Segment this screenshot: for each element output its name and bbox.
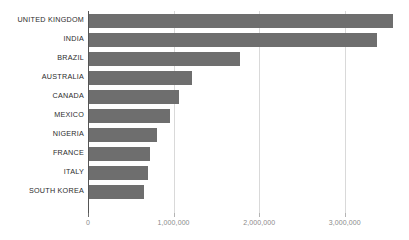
bar-row: UNITED KINGDOM	[0, 12, 409, 31]
category-label: MEXICO	[54, 110, 84, 119]
bar	[89, 166, 148, 180]
bar	[89, 14, 393, 28]
bar-row: INDIA	[0, 31, 409, 50]
bar	[89, 90, 179, 104]
bar-row: AUSTRALIA	[0, 69, 409, 88]
x-tick-label: 1,000,000	[158, 219, 190, 226]
category-label: FRANCE	[53, 148, 84, 157]
x-tick-label: 3,000,000	[329, 219, 361, 226]
category-label: NIGERIA	[53, 129, 84, 138]
bar	[89, 52, 240, 66]
category-label: BRAZIL	[57, 53, 84, 62]
category-label: INDIA	[64, 34, 84, 43]
x-tick-mark	[259, 213, 260, 217]
bar-row: SOUTH KOREA	[0, 183, 409, 202]
x-tick-label: 0	[86, 219, 90, 226]
bar	[89, 128, 157, 142]
bar	[89, 33, 377, 47]
category-label: SOUTH KOREA	[29, 186, 84, 195]
x-tick-mark	[345, 213, 346, 217]
bar-row: ITALY	[0, 164, 409, 183]
x-tick-label: 2,000,000	[243, 219, 275, 226]
bar-row: NIGERIA	[0, 126, 409, 145]
bar-row: BRAZIL	[0, 50, 409, 69]
x-tick-mark	[174, 213, 175, 217]
bar	[89, 71, 192, 85]
category-label: UNITED KINGDOM	[17, 15, 84, 24]
bar	[89, 147, 150, 161]
bar-row: MEXICO	[0, 107, 409, 126]
bar	[89, 185, 144, 199]
category-label: AUSTRALIA	[42, 72, 84, 81]
category-label: ITALY	[64, 167, 84, 176]
category-label: CANADA	[53, 91, 84, 100]
bar-row: FRANCE	[0, 145, 409, 164]
x-tick-mark	[88, 213, 89, 217]
bar-chart: 01,000,0002,000,0003,000,000 UNITED KING…	[0, 0, 409, 240]
bar-row: CANADA	[0, 88, 409, 107]
bar	[89, 109, 170, 123]
